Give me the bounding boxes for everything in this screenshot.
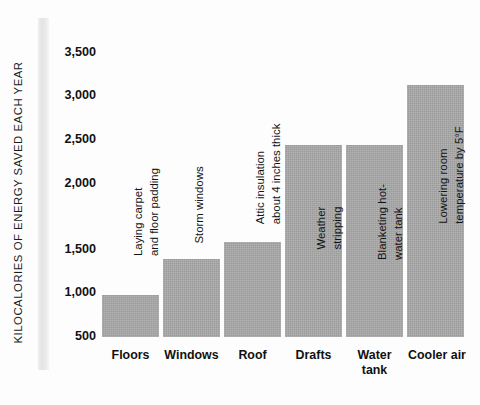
y-tick-3500: 3,500 [50,45,96,59]
bar-label-roof-line1: Attic insulation [253,124,269,225]
decorative-axis-band [38,18,49,370]
bar-label-roof-line2: about 4 inches thick [268,124,284,225]
bar-group-cooler-air: Lowering room temperature by 5°F [407,0,464,405]
energy-savings-bar-chart: KILOCALORIES OF ENERGY SAVED EACH YEAR 3… [0,0,480,405]
y-tick-500: 500 [50,329,96,343]
bar-label-floors-line2: and floor padding [146,168,162,256]
x-label-water-tank: Water tank [346,348,403,377]
bar-floors [102,295,159,337]
y-tick-1500: 1,500 [50,242,96,256]
bar-group-roof: Attic insulation about 4 inches thick [224,0,281,405]
bar-label-drafts-line2: stripping [329,206,345,249]
x-label-drafts: Drafts [285,348,342,363]
y-tick-2000: 2,000 [50,176,96,190]
bar-group-windows: Storm windows [163,0,220,405]
bar-roof [224,242,281,337]
bar-label-cooler-air-line2: temperature by 5°F [451,126,467,224]
plot-area: Laying carpet and floor padding Storm wi… [102,0,462,405]
bar-label-water-tank-line2: water tank [390,184,406,260]
bar-group-drafts: Weather stripping [285,0,342,405]
y-axis-title: KILOCALORIES OF ENERGY SAVED EACH YEAR [0,0,36,405]
bar-label-floors-line1: Laying carpet [131,168,147,256]
bar-label-cooler-air-line1: Lowering room [436,126,452,224]
bar-group-floors: Laying carpet and floor padding [102,0,159,405]
x-label-cooler-air: Cooler air [403,348,471,363]
y-tick-3000: 3,000 [50,88,96,102]
bar-label-windows-line1: Storm windows [192,166,208,243]
bar-group-water-tank: Blanketing hot- water tank [346,0,403,405]
y-tick-1000: 1,000 [50,285,96,299]
x-label-floors: Floors [102,348,159,363]
bar-label-drafts-line1: Weather [314,206,330,249]
bar-windows [163,259,220,337]
y-tick-2500: 2,500 [50,132,96,146]
x-label-roof: Roof [224,348,281,363]
bar-label-water-tank-line1: Blanketing hot- [375,184,391,260]
x-label-windows: Windows [163,348,220,363]
y-axis-tick-labels: 3,500 3,000 2,500 2,000 1,500 1,000 500 [50,0,96,405]
